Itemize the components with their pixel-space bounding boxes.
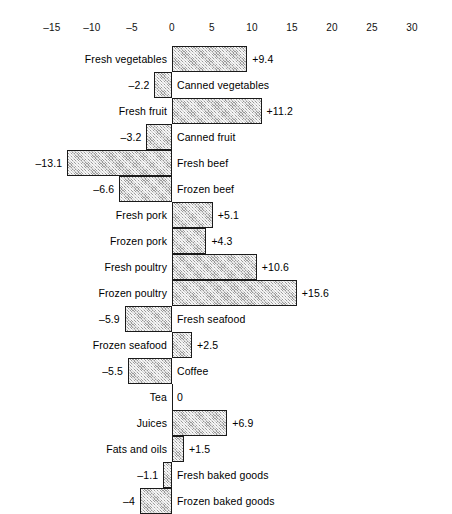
bar-row: Frozen seafood+2.5	[0, 332, 452, 358]
bar-row: Fresh vegetables+9.4	[0, 46, 452, 72]
category-label: Juices	[137, 410, 172, 436]
category-label: Fats and oils	[106, 436, 172, 462]
bar	[146, 124, 172, 150]
bar-row: Fresh baked goods–1.1	[0, 462, 452, 488]
category-label: Fresh vegetables	[85, 46, 172, 72]
value-label: –13.1	[35, 150, 67, 176]
axis-tick--5: –5	[126, 22, 138, 34]
bar	[172, 436, 184, 462]
bar-row: Frozen beef–6.6	[0, 176, 452, 202]
bar-row: Frozen baked goods–4	[0, 488, 452, 514]
bar-row: Canned vegetables–2.2	[0, 72, 452, 98]
value-label: –4	[123, 488, 140, 514]
bar-row: Frozen poultry+15.6	[0, 280, 452, 306]
axis-tick-30: 30	[406, 22, 418, 34]
category-label: Fresh beef	[172, 150, 228, 176]
bar	[172, 280, 297, 306]
category-label: Frozen pork	[110, 228, 172, 254]
value-label: +2.5	[192, 332, 218, 358]
category-label: Fresh seafood	[172, 306, 245, 332]
value-label: –5.9	[99, 306, 125, 332]
value-label: +15.6	[297, 280, 329, 306]
x-axis-tick-labels: –15–10–5051015202530	[0, 0, 452, 46]
category-label: Frozen poultry	[98, 280, 172, 306]
bar	[172, 228, 206, 254]
category-label: Frozen baked goods	[172, 488, 275, 514]
axis-tick-15: 15	[286, 22, 298, 34]
bar	[67, 150, 172, 176]
category-label: Frozen beef	[172, 176, 234, 202]
bar	[163, 462, 172, 488]
axis-tick-25: 25	[366, 22, 378, 34]
bar-row: Frozen pork+4.3	[0, 228, 452, 254]
value-label: –2.2	[129, 72, 155, 98]
bar	[128, 358, 172, 384]
bar-row: Fresh seafood–5.9	[0, 306, 452, 332]
axis-tick-0: 0	[169, 22, 175, 34]
value-label: +1.5	[184, 436, 210, 462]
value-label: +11.2	[262, 98, 293, 124]
bar	[154, 72, 172, 98]
bar-row: Fats and oils+1.5	[0, 436, 452, 462]
value-label: 0	[172, 384, 183, 410]
axis-tick-20: 20	[326, 22, 338, 34]
bar-row: Fresh poultry+10.6	[0, 254, 452, 280]
bar-row: Tea0	[0, 384, 452, 410]
axis-tick-10: 10	[246, 22, 258, 34]
bar-row: Coffee–5.5	[0, 358, 452, 384]
category-label: Fresh fruit	[119, 98, 172, 124]
value-label: +6.9	[227, 410, 253, 436]
category-label: Tea	[150, 384, 172, 410]
bar	[172, 254, 257, 280]
bar-row: Fresh fruit+11.2	[0, 98, 452, 124]
bar	[172, 332, 192, 358]
category-label: Coffee	[172, 358, 208, 384]
value-label: –5.5	[102, 358, 128, 384]
category-label: Fresh pork	[116, 202, 172, 228]
bar	[172, 202, 213, 228]
plot-area: Fresh vegetables+9.4Canned vegetables–2.…	[0, 46, 452, 486]
value-label: –1.1	[137, 462, 163, 488]
bar-row: Canned fruit–3.2	[0, 124, 452, 150]
bar-row: Fresh pork+5.1	[0, 202, 452, 228]
category-label: Frozen seafood	[93, 332, 172, 358]
category-label: Fresh poultry	[104, 254, 172, 280]
bar	[172, 46, 247, 72]
value-label: –6.6	[93, 176, 119, 202]
value-label: +9.4	[247, 46, 273, 72]
category-label: Canned vegetables	[172, 72, 269, 98]
value-label: +5.1	[213, 202, 239, 228]
axis-tick-5: 5	[209, 22, 215, 34]
bar	[140, 488, 172, 514]
bar	[172, 98, 262, 124]
category-label: Fresh baked goods	[172, 462, 269, 488]
axis-tick--10: –10	[83, 22, 100, 34]
category-label: Canned fruit	[172, 124, 235, 150]
bar-row: Juices+6.9	[0, 410, 452, 436]
value-label: –3.2	[121, 124, 147, 150]
bar	[172, 410, 227, 436]
value-label: +10.6	[257, 254, 289, 280]
axis-tick--15: –15	[43, 22, 60, 34]
bar	[119, 176, 172, 202]
bar	[125, 306, 172, 332]
value-label: +4.3	[206, 228, 232, 254]
bar-row: Fresh beef–13.1	[0, 150, 452, 176]
